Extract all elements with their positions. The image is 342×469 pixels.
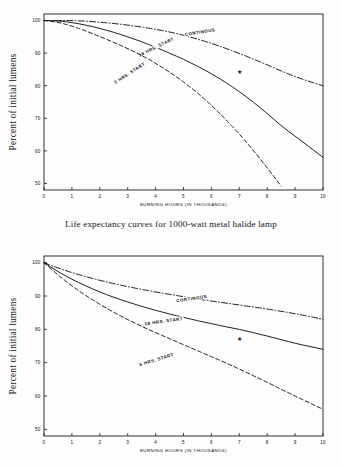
series-line <box>44 21 323 86</box>
series-label: 5 HRS. START5 HRS. START <box>139 352 175 367</box>
plot-frame <box>44 14 323 190</box>
x-tick-label: 1 <box>71 440 74 445</box>
x-tick-label: 0 <box>43 440 46 445</box>
series-label: 18 HRS. START18 HRS. START <box>138 36 175 57</box>
x-tick-label: 0 <box>43 194 46 199</box>
y-tick-label: 100 <box>32 18 41 23</box>
y-tick-label: 70 <box>35 360 41 365</box>
y-tick-label: 90 <box>35 294 41 299</box>
x-tick-label: 6 <box>210 440 213 445</box>
series-label: 18 HRS. START18 HRS. START <box>144 316 183 326</box>
x-tick-label: 2 <box>98 194 101 199</box>
x-axis-title: BURNING HOURS (IN THOUSANDS) <box>140 448 227 453</box>
series-label: CONTINOUSCONTINOUS <box>184 27 215 37</box>
x-tick-label: 1 <box>71 194 74 199</box>
figure-caption: Life expectancy curves for 1000-watt met… <box>0 219 342 229</box>
series-line <box>44 263 323 350</box>
x-tick-label: 4 <box>154 194 157 199</box>
series-label-text: CONTINOUS <box>184 27 215 37</box>
x-tick-label: 4 <box>154 440 157 445</box>
x-tick-label: 3 <box>126 440 129 445</box>
x-tick-label: 2 <box>98 440 101 445</box>
x-tick-label: 9 <box>294 440 297 445</box>
series-label-text: 18 HRS. START <box>144 316 183 326</box>
x-tick-label: 10 <box>320 194 326 199</box>
y-tick-label: 100 <box>32 260 41 265</box>
x-tick-label: 8 <box>266 440 269 445</box>
series-label-text: 5 HRS. START <box>113 61 146 85</box>
x-tick-label: 9 <box>294 194 297 199</box>
x-tick-label: 7 <box>238 440 241 445</box>
x-tick-label: 3 <box>126 194 129 199</box>
chart-bottom: 5060708090100012345678910BURNING HOURS (… <box>0 240 342 469</box>
y-tick-label: 50 <box>35 427 41 432</box>
y-axis-title: Percent of initial lumens <box>8 53 18 150</box>
series-label: CONTINOUSCONTINOUS <box>176 294 207 303</box>
x-tick-label: 7 <box>238 194 241 199</box>
y-tick-label: 50 <box>35 181 41 186</box>
y-tick-label: 80 <box>35 327 41 332</box>
x-tick-label: 5 <box>182 440 185 445</box>
series-line <box>44 263 323 410</box>
chart-top: 5060708090100012345678910BURNING HOURS (… <box>0 0 342 218</box>
data-point-marker: ★ <box>237 335 242 342</box>
plot-frame <box>44 256 323 436</box>
series-label-text: CONTINOUS <box>176 294 207 303</box>
y-tick-label: 80 <box>35 84 41 89</box>
figure-page: 5060708090100012345678910BURNING HOURS (… <box>0 0 342 469</box>
y-tick-label: 90 <box>35 51 41 56</box>
series-label-text: 18 HRS. START <box>138 36 175 57</box>
x-tick-label: 8 <box>266 194 269 199</box>
series-label-text: 5 HRS. START <box>139 352 175 367</box>
y-tick-label: 70 <box>35 116 41 121</box>
chart-canvas: 5060708090100012345678910BURNING HOURS (… <box>0 240 342 469</box>
series-line <box>44 263 323 320</box>
y-tick-label: 60 <box>35 394 41 399</box>
x-tick-label: 10 <box>320 440 326 445</box>
y-tick-label: 60 <box>35 149 41 154</box>
series-line <box>44 21 323 158</box>
x-tick-label: 5 <box>182 194 185 199</box>
x-axis-title: BURNING HOURS (IN THOUSANDS) <box>140 202 227 207</box>
y-axis-title: Percent of initial lumens <box>8 297 18 394</box>
chart-canvas: 5060708090100012345678910BURNING HOURS (… <box>0 0 342 218</box>
x-tick-label: 6 <box>210 194 213 199</box>
data-point-marker: ★ <box>237 68 242 75</box>
series-label: 5 HRS. START5 HRS. START <box>113 61 146 85</box>
